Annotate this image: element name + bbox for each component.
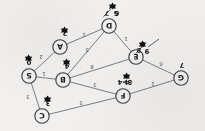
edge-weight-a-d: 1 <box>82 32 85 38</box>
graph-edge-b-d <box>68 31 105 74</box>
edge-weight-s-c: 3 <box>26 94 29 100</box>
edge-weight-e-d: 1 <box>124 36 127 42</box>
graph-edge-s-b <box>36 77 56 79</box>
rotated-canvas: 31253851161 SCBAFGED 03424765 8>49687 <box>0 0 205 131</box>
node-label-a: A <box>57 42 63 51</box>
nodes-layer: SCBAFGED <box>22 19 188 123</box>
graph-node-a[interactable]: A <box>53 40 67 54</box>
graph-edge-e-d <box>114 31 132 51</box>
node-label-s: S <box>26 71 31 80</box>
node-label-d: D <box>106 21 112 30</box>
edge-weight-b-d: 5 <box>85 47 88 53</box>
node-label-g: G <box>178 73 184 82</box>
edge-weight-b-f: 3 <box>93 82 96 88</box>
edge-weight-s-b: 1 <box>42 71 45 77</box>
ink-blot-4 <box>123 72 131 79</box>
e-pointer-arrow <box>148 39 159 47</box>
node-label-f: F <box>120 91 125 100</box>
d-relax-note: 6 <box>114 9 119 17</box>
scanned-graph-sheet: 31253851161 SCBAFGED 03424765 8>49687 <box>0 0 205 131</box>
node-distance-g: 7 <box>179 61 184 69</box>
node-label-c: C <box>39 111 45 120</box>
edge-weight-g-e: 6 <box>159 61 163 67</box>
ink-blot-2 <box>63 58 71 65</box>
e-relax-note: 9 <box>144 47 149 55</box>
ink-blot-3 <box>61 26 69 33</box>
ink-blot-0 <box>25 54 33 61</box>
graph-node-g[interactable]: G <box>174 71 188 85</box>
edge-weight-f-g: 1 <box>151 81 154 87</box>
graph-node-s[interactable]: S <box>22 69 36 83</box>
f-relax-note: 8>4 <box>117 78 132 86</box>
ink-blot-6 <box>109 2 117 9</box>
graph-edge-s-a <box>34 52 54 71</box>
ink-blot-1 <box>44 95 52 102</box>
graph-diagram: 31253851161 SCBAFGED 03424765 8>49687 <box>0 0 205 131</box>
graph-node-d[interactable]: D <box>102 19 116 33</box>
edge-weight-b-e: 8 <box>90 64 94 70</box>
graph-node-f[interactable]: F <box>116 89 130 103</box>
graph-node-b[interactable]: B <box>56 73 70 87</box>
edges-layer <box>31 29 174 114</box>
edge-weight-c-f: 5 <box>79 100 82 106</box>
edge-weight-s-a: 2 <box>39 54 42 60</box>
graph-node-c[interactable]: C <box>35 109 49 123</box>
node-label-b: B <box>60 75 66 84</box>
graph-edge-s-c <box>31 83 40 109</box>
